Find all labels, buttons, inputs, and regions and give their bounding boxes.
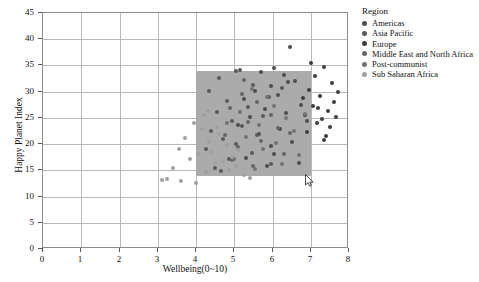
data-point[interactable] (276, 126, 280, 130)
data-point[interactable] (230, 119, 234, 123)
data-point[interactable] (204, 170, 208, 174)
data-point[interactable] (255, 100, 259, 104)
data-point[interactable] (290, 140, 294, 144)
data-point[interactable] (265, 95, 269, 99)
data-point[interactable] (240, 92, 244, 96)
data-point[interactable] (225, 143, 229, 147)
data-point[interactable] (253, 89, 257, 93)
data-point[interactable] (177, 147, 181, 151)
data-point[interactable] (336, 90, 340, 94)
data-point[interactable] (244, 135, 248, 139)
data-point[interactable] (228, 106, 232, 110)
data-point[interactable] (160, 178, 164, 182)
data-point[interactable] (334, 115, 338, 119)
legend-item[interactable]: Sub Saharan Africa (362, 69, 478, 79)
data-point[interactable] (313, 74, 317, 78)
data-point[interactable] (242, 173, 246, 177)
data-point[interactable] (274, 141, 278, 145)
data-point[interactable] (322, 138, 326, 142)
data-point[interactable] (242, 78, 246, 82)
data-point[interactable] (284, 116, 288, 120)
data-point[interactable] (272, 104, 276, 108)
data-point[interactable] (269, 144, 273, 148)
legend-item[interactable]: Asia Pacific (362, 28, 478, 38)
data-point[interactable] (209, 150, 213, 154)
data-point[interactable] (250, 151, 254, 155)
data-point[interactable] (272, 66, 276, 70)
data-point[interactable] (165, 177, 169, 181)
data-point[interactable] (227, 168, 231, 172)
data-point[interactable] (280, 162, 284, 166)
data-point[interactable] (315, 121, 319, 125)
data-point[interactable] (253, 167, 257, 171)
data-point[interactable] (326, 109, 330, 113)
data-point[interactable] (261, 147, 265, 151)
data-point[interactable] (183, 136, 187, 140)
data-point[interactable] (225, 121, 229, 125)
data-point[interactable] (318, 94, 322, 98)
data-point[interactable] (305, 119, 309, 123)
data-point[interactable] (238, 68, 242, 72)
data-point[interactable] (297, 153, 301, 157)
data-point[interactable] (225, 99, 229, 103)
data-point[interactable] (234, 164, 238, 168)
data-point[interactable] (188, 157, 192, 161)
data-point[interactable] (316, 106, 320, 110)
data-point[interactable] (288, 45, 292, 49)
data-point[interactable] (196, 152, 200, 156)
data-point[interactable] (200, 127, 204, 131)
data-point[interactable] (305, 130, 309, 134)
data-point[interactable] (246, 120, 250, 124)
data-point[interactable] (250, 87, 254, 91)
data-point[interactable] (248, 176, 252, 180)
legend-item[interactable]: Americas (362, 18, 478, 28)
plot-frame[interactable] (42, 12, 348, 248)
data-point[interactable] (215, 110, 219, 114)
data-point[interactable] (204, 147, 208, 151)
data-point[interactable] (248, 115, 252, 119)
data-point[interactable] (320, 117, 324, 121)
data-point[interactable] (259, 70, 263, 74)
data-point[interactable] (299, 103, 303, 107)
data-point[interactable] (217, 76, 221, 80)
data-point[interactable] (261, 114, 265, 118)
data-point[interactable] (179, 179, 183, 183)
legend-item[interactable]: Middle East and North Africa (362, 49, 478, 59)
data-point[interactable] (209, 129, 213, 133)
data-point[interactable] (207, 89, 211, 93)
data-point[interactable] (269, 84, 273, 88)
data-point[interactable] (257, 123, 261, 127)
data-point[interactable] (171, 166, 175, 170)
data-point[interactable] (332, 100, 336, 104)
data-point[interactable] (328, 125, 332, 129)
data-point[interactable] (255, 133, 259, 137)
legend-item[interactable]: Europe (362, 39, 478, 49)
data-point[interactable] (244, 156, 248, 160)
data-point[interactable] (282, 73, 286, 77)
data-point[interactable] (322, 65, 326, 69)
data-point[interactable] (223, 133, 227, 137)
data-point[interactable] (230, 155, 234, 159)
data-point[interactable] (240, 124, 244, 128)
data-point[interactable] (213, 161, 217, 165)
data-point[interactable] (286, 80, 290, 84)
data-point[interactable] (246, 105, 250, 109)
plot-area[interactable] (43, 13, 347, 247)
data-point[interactable] (238, 110, 242, 114)
data-point[interactable] (236, 148, 240, 152)
data-point[interactable] (221, 159, 225, 163)
data-point[interactable] (303, 112, 307, 116)
data-point[interactable] (301, 96, 305, 100)
data-point[interactable] (297, 161, 301, 165)
data-point[interactable] (311, 104, 315, 108)
data-point[interactable] (307, 88, 311, 92)
data-point[interactable] (206, 109, 210, 113)
data-point[interactable] (202, 113, 206, 117)
data-point[interactable] (330, 81, 334, 85)
legend-item[interactable]: Post-communist (362, 59, 478, 69)
data-point[interactable] (272, 152, 276, 156)
data-point[interactable] (259, 139, 263, 143)
data-point[interactable] (293, 79, 297, 83)
data-point[interactable] (309, 61, 313, 65)
data-point[interactable] (213, 166, 217, 170)
